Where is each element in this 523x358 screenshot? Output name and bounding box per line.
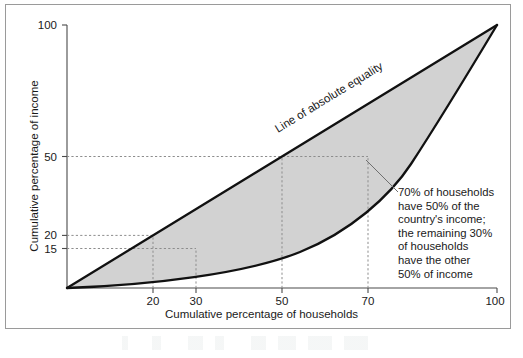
x-tick-label-70: 70 [362,295,375,307]
callout-line-7: 50% of income [398,268,514,282]
y-axis-title: Cumulative percentage of income [28,46,40,286]
callout-line-3: country's income; [398,213,514,227]
x-tick-label-50: 50 [276,295,289,307]
y-tick-label-50: 50 [44,151,57,163]
lorenz-curve-figure: 100 50 20 15 20 30 50 70 100 Line of abs… [0,0,523,358]
callout-line-2: have 50% of the [398,200,514,214]
y-tick-label-20: 20 [44,229,57,241]
y-tick-label-15: 15 [44,243,57,255]
x-tick-label-100: 100 [485,295,504,307]
scan-artifact [110,336,410,350]
callout-line-6: have the other [398,254,514,268]
callout-line-1: 70% of households [398,186,514,200]
chart-canvas: 100 50 20 15 20 30 50 70 100 Line of abs… [0,0,523,358]
callout-line-4: the remaining 30% [398,227,514,241]
y-tick-label-100: 100 [38,19,57,31]
x-tick-label-30: 30 [190,295,203,307]
lorenz-callout-text: 70% of households have 50% of the countr… [398,186,514,281]
x-axis-title: Cumulative percentage of households [0,308,523,320]
x-tick-label-20: 20 [147,295,160,307]
callout-line-5: of households [398,240,514,254]
